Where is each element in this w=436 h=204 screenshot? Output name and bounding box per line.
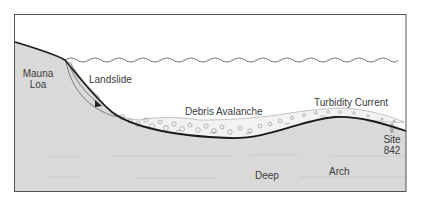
- sea-surface-wave-line: [65, 58, 398, 62]
- label-mauna-loa-line2: Loa: [18, 79, 58, 90]
- label-debris-avalanche: Debris Avalanche: [185, 106, 263, 117]
- label-mauna-loa-line1: Mauna: [18, 68, 58, 79]
- label-turbidity-current: Turbidity Current: [314, 97, 388, 108]
- label-site-line1: Site: [380, 134, 404, 145]
- label-landslide: Landslide: [89, 74, 132, 85]
- label-site-842: Site 842: [380, 134, 404, 156]
- label-deep: Deep: [255, 170, 279, 181]
- label-arch: Arch: [329, 166, 350, 177]
- label-site-line2: 842: [380, 145, 404, 156]
- landslide-cross-section-diagram: Mauna Loa Landslide Debris Avalanche Tur…: [0, 0, 436, 204]
- label-mauna-loa: Mauna Loa: [18, 68, 58, 90]
